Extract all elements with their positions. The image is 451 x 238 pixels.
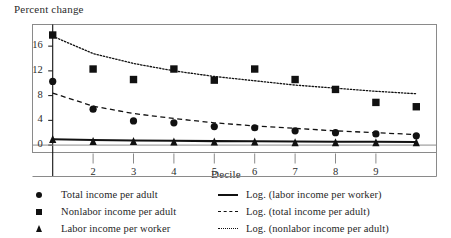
y-tick-label: 0 [27,138,43,149]
dotted-glyph [218,228,238,229]
marker-circle-icon [33,186,61,203]
legend-item: Labor income per worker [33,220,176,237]
solid-glyph [218,194,238,196]
legend-line-column: Log. (labor income per worker)Log. (tota… [218,186,389,237]
dashed-glyph [218,211,238,212]
x-tick-label: 2 [86,166,100,177]
legend-item: Total income per adult [33,186,176,203]
y-tick-label: 12 [27,64,43,75]
line-solid-icon [218,186,246,203]
square-glyph [36,209,42,215]
line-dashed-icon [218,203,246,220]
x-tick-label: 6 [248,166,262,177]
legend-item-label: Log. (labor income per worker) [246,189,382,200]
legend-item-label: Labor income per worker [61,223,170,234]
x-tick-label: 4 [167,166,181,177]
legend-item-label: Log. (total income per adult) [246,206,370,217]
legend-item-label: Total income per adult [61,189,158,200]
legend-item-label: Log. (nonlabor income per adult) [246,223,389,234]
x-tick-label: 5 [207,166,221,177]
legend-item: Log. (labor income per worker) [218,186,389,203]
x-tick-label: 3 [127,166,141,177]
chart-figure: Percent change Decile 0481216 23456789 T… [0,0,451,238]
y-tick-label: 4 [27,113,43,124]
y-tick-label: 16 [27,39,43,50]
x-tick-label: 7 [288,166,302,177]
line-dotted-icon [218,220,246,237]
legend-item-label: Nonlabor income per adult [61,206,176,217]
legend-item: Log. (nonlabor income per adult) [218,220,389,237]
plot-area [0,0,451,186]
circle-glyph [36,192,42,198]
triangle-glyph [36,225,42,232]
legend-item: Nonlabor income per adult [33,203,176,220]
x-tick-label: 8 [329,166,343,177]
chart-legend: Total income per adultNonlabor income pe… [0,186,451,238]
y-tick-label: 8 [27,89,43,100]
x-tick-label: 9 [369,166,383,177]
legend-marker-column: Total income per adultNonlabor income pe… [33,186,176,237]
marker-square-icon [33,203,61,220]
legend-item: Log. (total income per adult) [218,203,389,220]
marker-triangle-icon [33,220,61,237]
